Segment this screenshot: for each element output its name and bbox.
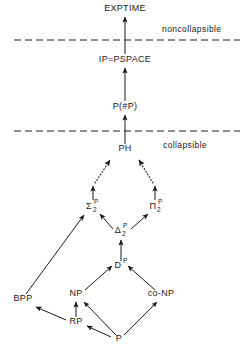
node-dp-superscript: P	[123, 257, 127, 264]
node-p-sharp-p: P(#P)	[113, 101, 138, 111]
node-pi2p-subscript: 2	[157, 206, 161, 213]
edge-delta2p-to-sigma2p	[100, 214, 113, 229]
region-label-noncollapsible: noncollapsible	[162, 24, 221, 34]
region-label-collapsible: collapsible	[163, 140, 207, 150]
node-delta2p-subscript: 2	[122, 230, 126, 237]
node-ip-pspace: IP=PSPACE	[99, 54, 151, 64]
edge-rp-to-bpp	[36, 307, 66, 320]
node-p: P	[116, 333, 122, 343]
node-ph: PH	[118, 143, 131, 153]
edge-delta2p-to-pi2p	[131, 214, 148, 229]
node-sigma2p-symbol: Σ	[86, 201, 92, 211]
node-labels-layer: EXPTIME IP=PSPACE P(#P) PH Σ 2 P Π 2 P Δ…	[14, 3, 175, 343]
node-pi2p-symbol: Π	[150, 201, 157, 211]
node-delta2p-symbol: Δ	[115, 225, 121, 235]
node-delta2p-superscript: P	[123, 222, 127, 229]
edge-p-to-conp	[124, 302, 157, 335]
node-pi2p-superscript: P	[158, 198, 162, 205]
edge-p-to-rp	[87, 326, 111, 337]
node-pi2p: Π 2 P	[150, 198, 163, 213]
node-conp: co-NP	[148, 288, 175, 298]
edge-bpp-to-sigma2p	[26, 215, 84, 294]
edge-conp-to-dp	[128, 266, 155, 290]
node-dp-symbol: D	[115, 260, 122, 270]
complexity-hierarchy-diagram: EXPTIME IP=PSPACE P(#P) PH Σ 2 P Π 2 P Δ…	[0, 0, 250, 350]
edge-pi2p-upper-dotted	[139, 160, 153, 183]
node-sigma2p-superscript: P	[94, 198, 98, 205]
node-exptime: EXPTIME	[104, 3, 146, 13]
node-np: NP	[69, 288, 82, 298]
edge-np-to-dp	[85, 266, 112, 290]
node-delta2p: Δ 2 P	[115, 222, 128, 237]
node-bpp: BPP	[14, 293, 33, 303]
edge-sigma2p-upper-dotted	[95, 160, 110, 183]
node-rp: RP	[69, 316, 82, 326]
node-sigma2p: Σ 2 P	[86, 198, 98, 213]
node-sigma2p-subscript: 2	[93, 206, 97, 213]
edge-p-to-np	[84, 302, 116, 335]
edges-layer	[26, 17, 157, 337]
